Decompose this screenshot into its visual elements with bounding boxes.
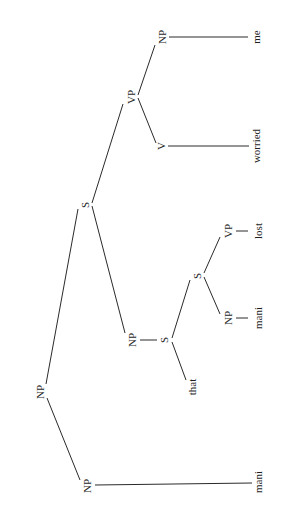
edge-head-np-to-mani — [95, 483, 252, 485]
node-comp-s: S — [158, 337, 170, 343]
leaf-mani-head: mani — [252, 471, 264, 493]
edge-vp-to-v — [138, 98, 156, 143]
node-head-np: NP — [81, 479, 93, 493]
node-rel-s: S — [79, 202, 91, 208]
edge-s-to-comp-np — [92, 206, 125, 333]
node-inner-np: NP — [222, 311, 234, 325]
leaf-that: that — [186, 379, 198, 396]
edge-root-np-to-head-np — [47, 398, 80, 480]
node-root-np: NP — [34, 385, 46, 399]
edge-comp-s-to-inner-s — [172, 280, 190, 338]
edge-vp-to-obj-np — [138, 45, 155, 95]
leaf-me: me — [250, 30, 262, 44]
edge-inner-s-to-inner-vp — [204, 237, 220, 273]
edge-inner-s-to-inner-np — [204, 277, 220, 314]
node-inner-s: S — [191, 273, 203, 279]
node-inner-vp: VP — [222, 224, 234, 238]
edge-comp-s-to-that — [172, 342, 186, 380]
leaf-worried: worried — [250, 128, 262, 163]
tree-edges — [46, 37, 252, 485]
syntax-tree-diagram: NP NP mani S NP S that S NP mani VP lost… — [0, 0, 284, 521]
node-v: V — [155, 142, 167, 150]
node-obj-np: NP — [156, 30, 168, 44]
edge-s-to-vp — [92, 104, 123, 203]
node-vp: VP — [125, 90, 137, 104]
edge-root-np-to-s — [46, 209, 78, 384]
node-comp-np: NP — [126, 333, 138, 347]
leaf-lost: lost — [252, 223, 264, 239]
leaf-mani-inner: mani — [252, 307, 264, 329]
